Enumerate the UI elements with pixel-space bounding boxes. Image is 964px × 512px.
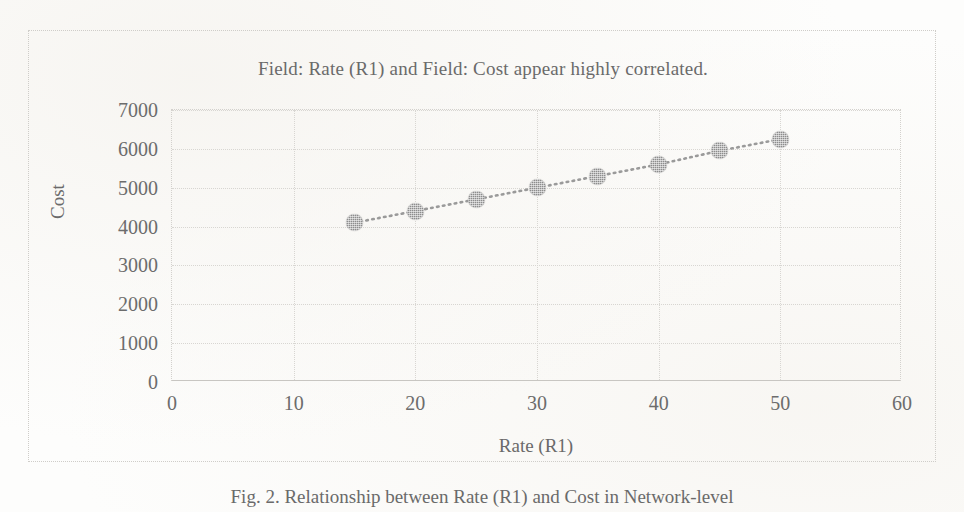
y-tick-label: 6000: [118, 137, 158, 160]
data-series-markers: [172, 110, 900, 380]
x-tick-label: 60: [892, 392, 912, 415]
y-tick-label: 2000: [118, 293, 158, 316]
x-tick-label: 40: [649, 392, 669, 415]
data-point-marker[interactable]: [346, 214, 363, 231]
x-tick-label: 0: [167, 392, 177, 415]
x-tick-label: 50: [770, 392, 790, 415]
chart-title: Field: Rate (R1) and Field: Cost appear …: [29, 58, 937, 80]
y-tick-label: 1000: [118, 332, 158, 355]
data-point-marker[interactable]: [650, 156, 667, 173]
chart-frame: Field: Rate (R1) and Field: Cost appear …: [28, 30, 936, 462]
x-tick-label: 20: [405, 392, 425, 415]
data-point-marker[interactable]: [407, 203, 424, 220]
data-point-marker[interactable]: [772, 131, 789, 148]
data-point-marker[interactable]: [529, 179, 546, 196]
y-tick-label: 3000: [118, 254, 158, 277]
y-tick-label: 5000: [118, 176, 158, 199]
y-tick-label: 0: [148, 371, 158, 394]
x-tick-label: 30: [527, 392, 547, 415]
data-point-marker[interactable]: [589, 168, 606, 185]
plot-area: 01000200030004000500060007000 0102030405…: [171, 109, 901, 381]
x-tick-label: 10: [284, 392, 304, 415]
y-tick-label: 4000: [118, 215, 158, 238]
data-point-marker[interactable]: [468, 191, 485, 208]
x-axis-title: Rate (R1): [171, 435, 901, 457]
figure-caption: Fig. 2. Relationship between Rate (R1) a…: [0, 486, 964, 508]
y-axis-title: Cost: [47, 184, 69, 219]
data-point-marker[interactable]: [711, 142, 728, 159]
y-tick-label: 7000: [118, 99, 158, 122]
